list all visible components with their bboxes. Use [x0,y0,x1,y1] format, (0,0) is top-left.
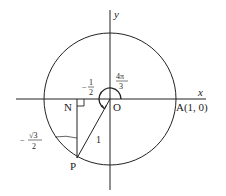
x-axis-label: x [197,86,203,98]
angle-fraction-label: 4π 3 [116,72,128,91]
right-angle-marker [77,99,84,106]
svg-text:1: 1 [89,78,93,87]
svg-text:3: 3 [119,82,123,91]
y-coord-fraction-label: − √3 2 [20,131,42,151]
svg-text:2: 2 [32,142,36,151]
point-n-label: N [64,101,72,113]
point-a-label: A(1, 0) [176,101,208,114]
radius-op [77,99,110,158]
svg-text:√3: √3 [29,131,37,140]
svg-text:−: − [20,136,25,145]
leader-line [55,136,77,138]
unit-circle-diagram: y x O A(1, 0) N P 1 4π 3 − 1 2 − √3 2 [0,0,226,196]
radius-label: 1 [96,134,101,145]
y-axis-label: y [113,8,119,20]
point-p-label: P [70,160,76,172]
x-coord-fraction-label: − 1 2 [82,78,94,97]
origin-label: O [113,101,121,113]
svg-text:4π: 4π [116,72,124,81]
svg-text:2: 2 [89,88,93,97]
svg-text:−: − [82,83,87,92]
